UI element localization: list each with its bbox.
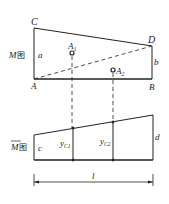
ordinate-yc1-label: yC1 — [59, 138, 71, 149]
diagram-canvas: C D A B a b A1 A2 M图 M图 c d yC1 yC2 l — [0, 0, 169, 204]
m-bar-diagram-label: M图 — [10, 142, 27, 152]
point-c-label: C — [31, 16, 38, 27]
centroid-a2-label: A2 — [115, 66, 125, 77]
m-diagram — [34, 28, 152, 128]
side-d-label: d — [155, 132, 160, 142]
side-b-label: b — [154, 57, 159, 67]
centroid-a1-label: A1 — [67, 41, 77, 52]
ordinate-yc2-label: yC2 — [99, 136, 111, 147]
point-d-label: D — [147, 34, 156, 45]
moment-diagram-svg: C D A B a b A1 A2 M图 M图 c d yC1 yC2 l — [0, 0, 169, 204]
m-diagram-label: M图 — [8, 50, 25, 60]
point-b-label: B — [149, 82, 155, 92]
side-a-label: a — [38, 50, 43, 60]
side-c-label: c — [38, 143, 42, 153]
centroid-a2-marker — [111, 68, 115, 72]
length-label: l — [92, 171, 95, 181]
point-a-label: A — [30, 81, 37, 91]
